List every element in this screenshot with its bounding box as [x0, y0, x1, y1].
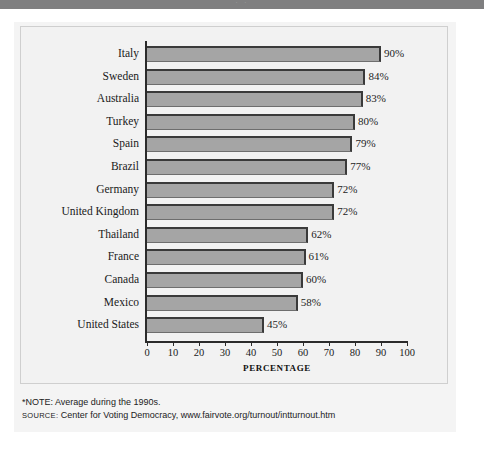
x-tick-label: 30 [220, 347, 231, 358]
x-tick [381, 341, 382, 346]
bar [147, 136, 352, 152]
bar-value-label: 77% [350, 159, 370, 174]
plot-area: Italy90%Sweden84%Australia83%Turkey80%Sp… [145, 41, 407, 341]
category-label: Mexico [104, 295, 139, 310]
note-line: *NOTE: Average during the 1990s. [22, 396, 442, 409]
bar [147, 204, 334, 220]
x-tick [147, 341, 148, 346]
bar [147, 317, 264, 333]
x-tick-label: 60 [298, 347, 309, 358]
bar [147, 272, 303, 288]
bar-row: Sweden84% [147, 67, 407, 90]
x-tick [199, 341, 200, 346]
bar-row: Spain79% [147, 134, 407, 157]
bar [147, 182, 334, 198]
category-label: Turkey [106, 114, 139, 129]
bar-row: Italy90% [147, 44, 407, 67]
x-tick-label: 10 [168, 347, 179, 358]
bar-row: France61% [147, 247, 407, 270]
bar [147, 227, 308, 243]
bar-value-label: 72% [337, 182, 357, 197]
x-tick-label: 20 [194, 347, 205, 358]
x-tick-label: 50 [272, 347, 283, 358]
x-tick [407, 341, 408, 346]
header-band-text: · · [235, 0, 249, 7]
category-label: Thailand [98, 227, 139, 242]
bar-series: Italy90%Sweden84%Australia83%Turkey80%Sp… [147, 44, 407, 338]
x-tick [355, 341, 356, 346]
x-tick [173, 341, 174, 346]
category-label: United Kingdom [61, 204, 139, 219]
source-line: SOURCE: Center for Voting Democracy, www… [22, 409, 442, 422]
bar-value-label: 45% [267, 317, 287, 332]
category-label: Sweden [103, 69, 139, 84]
bar-row: Mexico58% [147, 293, 407, 316]
x-tick [303, 341, 304, 346]
x-axis-title: PERCENTAGE [145, 363, 409, 373]
bar-row: Brazil77% [147, 157, 407, 180]
figure-card: Italy90%Sweden84%Australia83%Turkey80%Sp… [14, 22, 456, 432]
bar-row: Turkey80% [147, 112, 407, 135]
bar-value-label: 83% [366, 91, 386, 106]
bar-row: Thailand62% [147, 225, 407, 248]
bar-value-label: 80% [358, 114, 378, 129]
bar-row: United Kingdom72% [147, 202, 407, 225]
bar [147, 295, 298, 311]
bar-value-label: 72% [337, 204, 357, 219]
bar-value-label: 60% [306, 272, 326, 287]
bar-value-label: 61% [309, 249, 329, 264]
bar-row: Australia83% [147, 89, 407, 112]
source-kicker: SOURCE: [22, 411, 58, 420]
bar [147, 91, 363, 107]
bar-row: Canada60% [147, 270, 407, 293]
x-tick-label: 0 [144, 347, 149, 358]
x-tick-label: 40 [246, 347, 257, 358]
source-text: Center for Voting Democracy, www.fairvot… [61, 410, 335, 420]
bar [147, 46, 381, 62]
x-tick [225, 341, 226, 346]
x-tick [251, 341, 252, 346]
x-tick [277, 341, 278, 346]
x-tick-label: 80 [350, 347, 361, 358]
category-label: United States [77, 317, 139, 332]
top-header-band: · · [0, 0, 484, 9]
bar-value-label: 58% [301, 295, 321, 310]
category-label: Spain [113, 136, 139, 151]
bar [147, 159, 347, 175]
bar-row: Germany72% [147, 180, 407, 203]
bar-value-label: 90% [384, 46, 404, 61]
figure-notes: *NOTE: Average during the 1990s. SOURCE:… [22, 396, 442, 422]
category-label: Italy [118, 46, 139, 61]
x-tick-label: 100 [399, 347, 415, 358]
x-tick-label: 90 [376, 347, 387, 358]
category-label: Australia [97, 91, 139, 106]
x-tick-label: 70 [324, 347, 335, 358]
category-label: Germany [96, 182, 139, 197]
category-label: Brazil [111, 159, 139, 174]
bar [147, 114, 355, 130]
bar-value-label: 84% [368, 69, 388, 84]
bar-row: United States45% [147, 315, 407, 338]
category-label: Canada [105, 272, 139, 287]
bar-value-label: 62% [311, 227, 331, 242]
x-tick [329, 341, 330, 346]
chart-frame: Italy90%Sweden84%Australia83%Turkey80%Sp… [20, 26, 448, 384]
bar [147, 249, 306, 265]
category-label: France [108, 249, 139, 264]
bar-value-label: 79% [355, 136, 375, 151]
bar [147, 69, 365, 85]
